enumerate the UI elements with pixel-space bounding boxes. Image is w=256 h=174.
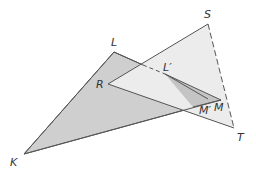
label-l-prime: L′	[163, 61, 172, 74]
label-l: L	[111, 36, 117, 49]
label-m: M	[214, 101, 224, 114]
geometry-diagram: K L R S T M L′ M′	[0, 0, 256, 174]
label-r: R	[96, 78, 104, 91]
label-k: K	[10, 156, 18, 169]
label-s: S	[204, 8, 211, 21]
label-m-prime: M′	[199, 104, 211, 117]
label-t: T	[237, 131, 245, 144]
